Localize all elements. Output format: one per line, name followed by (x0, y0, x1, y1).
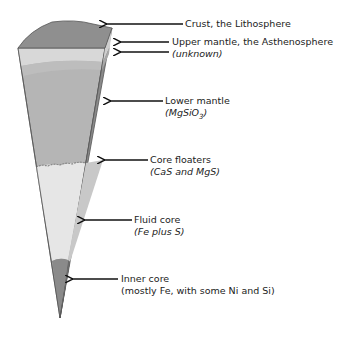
label-core-floaters: Core floaters (CaS and MgS) (150, 154, 220, 178)
label-fluid-core: Fluid core (Fe plus S) (134, 214, 184, 238)
label-lower-mantle-sub: (MgSiO3) (165, 107, 230, 123)
label-core-floaters-sub: (CaS and MgS) (150, 166, 220, 178)
label-fluid-core-main: Fluid core (134, 214, 184, 226)
label-upper-mantle-main: Upper mantle, the Asthenosphere (172, 36, 333, 48)
crust-top-face (18, 21, 112, 48)
label-upper-mantle-sub: (unknown) (172, 48, 333, 60)
label-inner-core: Inner core (mostly Fe, with some Ni and … (121, 273, 275, 297)
label-lower-mantle-main: Lower mantle (165, 95, 230, 107)
label-fluid-core-sub: (Fe plus S) (134, 226, 184, 238)
label-upper-mantle: Upper mantle, the Asthenosphere (unknown… (172, 36, 333, 60)
label-crust-main: Crust, the Lithosphere (185, 18, 291, 30)
label-core-floaters-main: Core floaters (150, 154, 220, 166)
label-inner-core-sub: (mostly Fe, with some Ni and Si) (121, 285, 275, 297)
label-lower-mantle: Lower mantle (MgSiO3) (165, 95, 230, 123)
label-inner-core-main: Inner core (121, 273, 275, 285)
label-crust: Crust, the Lithosphere (185, 18, 291, 30)
